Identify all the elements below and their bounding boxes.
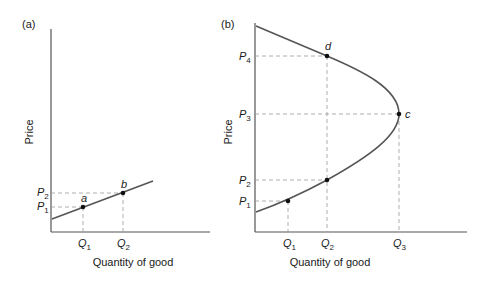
panel-a-supply-line [52,181,153,219]
panel-b-tick-p2: P2 [239,174,251,189]
panel-b-y-label: Price [222,119,234,144]
panel-a-tick-p2: P2 [37,186,49,201]
panel-b-tick-p3: P3 [239,108,251,123]
panel-b-point-q1p1 [286,199,291,204]
panel-a-tick-q2: Q2 [117,237,131,252]
panel-a-x-label: Quantity of good [93,256,174,268]
panel-a-y-label: Price [23,119,35,144]
panel-a: (a) Price a b P2 P1 Q1 Q2 Quantity of go… [22,18,210,268]
figure: (a) Price a b P2 P1 Q1 Q2 Quantity of go… [0,0,481,283]
panel-a-tick-p1: P1 [37,200,49,215]
panel-b-tick-p1: P1 [239,195,251,210]
panel-b-point-d-label: d [325,40,332,52]
panel-b-point-c-label: c [405,108,411,120]
panel-b-tick-q2: Q2 [321,237,335,252]
panel-a-point-b [121,191,126,196]
panel-b-x-label: Quantity of good [290,256,371,268]
panel-b-tick-q1: Q1 [283,237,297,252]
panel-b-tick-p4: P4 [239,50,251,65]
panel-a-point-b-label: b [121,178,127,190]
panel-b: (b) Price c d P4 P3 P2 P1 Q1 Q2 Q3 Qua [221,18,467,268]
panel-b-point-c [397,112,402,117]
panel-b-point-d [325,54,330,59]
panel-b-point-q2p2 [325,178,330,183]
panel-a-point-a [81,205,86,210]
panel-b-label: (b) [221,18,234,30]
panel-a-point-a-label: a [81,192,87,204]
panel-a-label: (a) [22,18,35,30]
panel-b-tick-q3: Q3 [393,237,407,252]
panel-a-tick-q1: Q1 [78,237,92,252]
